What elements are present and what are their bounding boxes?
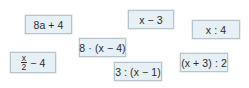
term-card-3-div-x-minus-1[interactable]: 3 : (x − 1) — [114, 62, 162, 81]
fraction: x 2 — [20, 54, 27, 71]
term-card-8a-plus-4[interactable]: 8a + 4 — [25, 15, 72, 34]
term-label: 8a + 4 — [33, 19, 63, 31]
term-label: 8 · (x − 4) — [79, 42, 125, 54]
term-suffix: − 4 — [30, 57, 45, 69]
term-card-8-times-x-minus-4[interactable]: 8 · (x − 4) — [79, 38, 126, 57]
term-label: x − 3 — [139, 14, 163, 26]
term-card-x-div-4[interactable]: x : 4 — [192, 20, 240, 39]
term-card-x-minus-3[interactable]: x − 3 — [128, 10, 174, 29]
term-label: (x + 3) : 2 — [181, 57, 227, 69]
fraction-denominator: 2 — [20, 63, 27, 71]
term-label: x : 4 — [206, 24, 226, 36]
term-card-x-plus-3-div-2[interactable]: (x + 3) : 2 — [180, 53, 228, 72]
term-card-x-over-2-minus-4[interactable]: x 2 − 4 — [10, 52, 56, 73]
term-label: 3 : (x − 1) — [115, 66, 161, 78]
